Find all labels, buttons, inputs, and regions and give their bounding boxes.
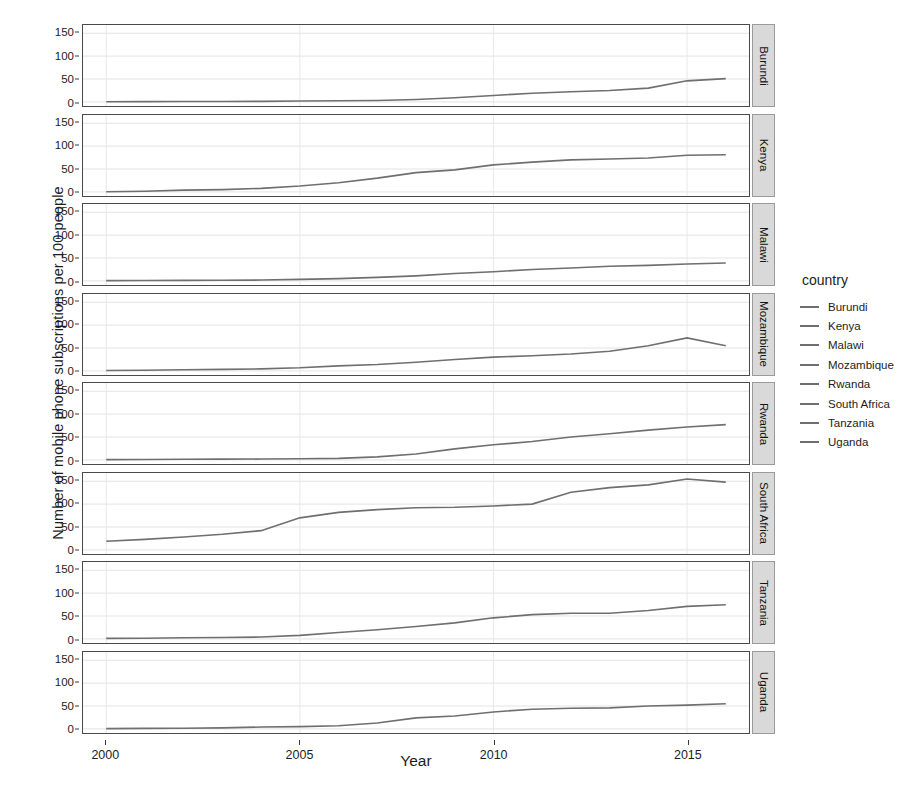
x-axis-title: Year (82, 752, 750, 770)
legend-item-south-africa[interactable]: South Africa (800, 394, 917, 413)
legend-item-label: South Africa (828, 398, 890, 410)
y-tick-mark (75, 55, 79, 56)
panel-plot-area (82, 293, 750, 376)
y-tick-mark (75, 413, 79, 414)
y-tick-label: 150 (55, 563, 74, 575)
x-tick-mark (688, 740, 689, 745)
y-tick-label: 100 (55, 139, 74, 151)
legend-item-tanzania[interactable]: Tanzania (800, 413, 917, 432)
legend-line-icon (800, 422, 819, 424)
facet-strip-text: Burundi (758, 46, 770, 86)
series-line (106, 703, 726, 728)
y-tick-label: 100 (55, 676, 74, 688)
y-tick-label: 50 (61, 700, 74, 712)
y-tick-label: 150 (55, 116, 74, 128)
facet-strip-label: Malawi (752, 203, 775, 286)
y-tick-mark (75, 300, 79, 301)
y-tick-mark (75, 168, 79, 169)
y-tick-mark (75, 437, 79, 438)
y-tick-label: 0 (68, 365, 74, 377)
y-tick-mark (75, 102, 79, 103)
y-tick-label: 150 (55, 205, 74, 217)
facet-strip-text: Tanzania (758, 579, 770, 625)
y-tick-label: 100 (55, 50, 74, 62)
panel-plot-area (82, 472, 750, 555)
y-tick-label: 150 (55, 295, 74, 307)
legend-item-label: Kenya (828, 320, 861, 332)
y-tick-label: 50 (61, 252, 74, 264)
legend-line-icon (800, 306, 819, 308)
series-line (106, 605, 726, 639)
legend-item-malawi[interactable]: Malawi (800, 336, 917, 355)
y-tick-mark (75, 460, 79, 461)
y-tick-mark (75, 281, 79, 282)
y-tick-label: 0 (68, 97, 74, 109)
series-line (106, 425, 726, 460)
legend-line-icon (800, 344, 819, 346)
legend-item-label: Uganda (828, 436, 868, 448)
facet-strip-label: Tanzania (752, 561, 775, 644)
facet-tanzania: 050100150Tanzania (82, 561, 775, 651)
y-tick-label: 100 (55, 318, 74, 330)
y-tick-label: 0 (68, 276, 74, 288)
facet-strip-label: Rwanda (752, 382, 775, 465)
y-tick-mark (75, 234, 79, 235)
y-tick-mark (75, 324, 79, 325)
legend-item-label: Burundi (828, 301, 868, 313)
y-tick-label: 150 (55, 653, 74, 665)
legend-item-burundi[interactable]: Burundi (800, 297, 917, 316)
y-tick-mark (75, 192, 79, 193)
legend-item-mozambique[interactable]: Mozambique (800, 355, 917, 374)
y-tick-mark (75, 658, 79, 659)
legend-item-label: Mozambique (828, 359, 894, 371)
legend-item-rwanda[interactable]: Rwanda (800, 375, 917, 394)
facet-south-africa: 050100150South Africa (82, 472, 775, 562)
legend-item-list: BurundiKenyaMalawiMozambiqueRwandaSouth … (800, 297, 917, 452)
panel-plot-area (82, 561, 750, 644)
y-tick-label: 50 (61, 342, 74, 354)
facet-strip-label: Burundi (752, 24, 775, 107)
y-tick-label: 100 (55, 229, 74, 241)
y-tick-label: 50 (61, 163, 74, 175)
y-tick-mark (75, 79, 79, 80)
legend-line-icon (800, 403, 819, 405)
y-tick-label: 0 (68, 723, 74, 735)
y-tick-mark (75, 211, 79, 212)
y-tick-mark (75, 258, 79, 259)
y-tick-mark (75, 503, 79, 504)
y-tick-label: 100 (55, 408, 74, 420)
y-tick-label: 0 (68, 634, 74, 646)
series-line (106, 154, 726, 191)
y-tick-label: 50 (61, 73, 74, 85)
y-tick-label: 0 (68, 186, 74, 198)
y-tick-mark (75, 569, 79, 570)
y-tick-label: 150 (55, 26, 74, 38)
panel-plot-area (82, 24, 750, 107)
y-tick-label: 100 (55, 497, 74, 509)
y-tick-mark (75, 526, 79, 527)
y-tick-mark (75, 592, 79, 593)
facet-strip-text: Mozambique (758, 301, 770, 367)
y-tick-mark (75, 705, 79, 706)
y-tick-label: 0 (68, 544, 74, 556)
y-tick-mark (75, 682, 79, 683)
y-tick-mark (75, 479, 79, 480)
y-tick-mark (75, 145, 79, 146)
panel-plot-area (82, 382, 750, 465)
series-line (106, 79, 726, 102)
y-tick-mark (75, 347, 79, 348)
facet-strip-label: South Africa (752, 472, 775, 555)
facet-strip-label: Uganda (752, 651, 775, 734)
facet-uganda: 050100150Uganda (82, 651, 775, 741)
legend: country BurundiKenyaMalawiMozambiqueRwan… (800, 272, 917, 452)
y-tick-mark (75, 390, 79, 391)
y-tick-label: 50 (61, 431, 74, 443)
legend-item-uganda[interactable]: Uganda (800, 433, 917, 452)
legend-line-icon (800, 325, 819, 327)
facet-strip-text: South Africa (758, 482, 770, 544)
facet-strip-text: Rwanda (758, 402, 770, 444)
facet-mozambique: 050100150Mozambique (82, 293, 775, 383)
legend-item-kenya[interactable]: Kenya (800, 316, 917, 335)
y-tick-label: 50 (61, 521, 74, 533)
y-tick-mark (75, 550, 79, 551)
